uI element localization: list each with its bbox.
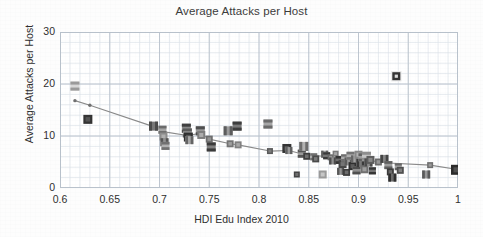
x-axis-label: HDI Edu Index 2010 xyxy=(0,213,483,225)
data-point xyxy=(337,168,344,175)
data-point xyxy=(388,174,396,182)
data-point xyxy=(285,147,292,154)
chart-figure: Average Attacks per Host 0102030 0.60.65… xyxy=(0,0,483,237)
data-point xyxy=(369,167,376,174)
data-point xyxy=(427,162,433,168)
chart-title: Average Attacks per Host xyxy=(0,5,483,17)
x-tick-label: 0.7 xyxy=(140,193,180,205)
data-point xyxy=(319,170,327,178)
data-layer xyxy=(60,32,458,188)
data-point xyxy=(83,115,92,124)
data-point xyxy=(303,153,310,160)
x-tick-label: 0.6 xyxy=(40,193,80,205)
data-point xyxy=(70,82,79,91)
data-point xyxy=(235,141,242,148)
x-tick-label: 1 xyxy=(438,193,478,205)
data-point xyxy=(366,156,374,164)
data-point xyxy=(391,71,401,81)
data-point xyxy=(197,131,205,139)
data-point xyxy=(312,155,319,162)
data-point xyxy=(451,165,458,175)
data-point xyxy=(227,140,234,147)
data-point xyxy=(333,151,339,157)
data-point xyxy=(206,136,213,143)
x-tick-label: 0.65 xyxy=(90,193,130,205)
data-point xyxy=(267,148,273,154)
y-tick-label: 0 xyxy=(29,181,55,193)
data-point xyxy=(294,171,300,177)
data-point xyxy=(422,170,430,178)
x-tick-label: 0.95 xyxy=(388,193,428,205)
data-point xyxy=(207,142,216,151)
data-point xyxy=(185,136,193,144)
data-point xyxy=(353,166,361,174)
data-point xyxy=(329,157,336,164)
data-point xyxy=(233,122,242,131)
data-point xyxy=(397,167,404,174)
data-point xyxy=(149,122,158,131)
plot-area xyxy=(60,32,458,188)
data-point xyxy=(161,142,169,150)
data-point xyxy=(299,142,308,151)
x-tick-label: 0.75 xyxy=(189,193,229,205)
data-point xyxy=(224,126,233,135)
y-axis-label: Average Attacks per Host xyxy=(23,9,35,159)
data-point xyxy=(263,120,272,129)
data-point xyxy=(384,161,392,169)
x-tick-label: 0.8 xyxy=(239,193,279,205)
x-tick-label: 0.9 xyxy=(339,193,379,205)
x-tick-label: 0.85 xyxy=(289,193,329,205)
